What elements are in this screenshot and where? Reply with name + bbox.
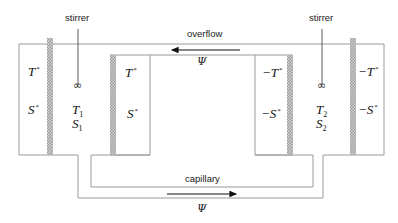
left-inner-salinity: S* (127, 107, 138, 120)
vessel-2-salinity: S2 (316, 117, 327, 133)
stirrer-icon-left: ∞ (73, 80, 82, 91)
right-outer-salinity: −S* (358, 103, 378, 116)
membrane-right-outer (350, 38, 356, 155)
capillary-label: capillary (185, 173, 220, 184)
right-inner-temperature: −T* (262, 66, 283, 79)
psi-bottom: Ψ (197, 203, 207, 214)
left-inner-temperature: T* (125, 66, 137, 79)
right-outer-temperature: −T* (358, 65, 379, 78)
right-inner-salinity: −S* (261, 107, 281, 120)
membrane-left-outer (47, 38, 53, 155)
overflow-label: overflow (187, 28, 222, 39)
two-box-thermohaline-diagram: stirrer stirrer overflow capillary Ψ Ψ ∞… (0, 0, 398, 223)
membrane-left-inner (110, 55, 116, 155)
stirrer-label-right: stirrer (309, 12, 333, 23)
stirrer-icon-right: ∞ (317, 80, 326, 91)
membrane-right-inner (287, 55, 293, 155)
psi-top: Ψ (197, 56, 207, 67)
left-outer-salinity: S* (28, 103, 39, 116)
left-outer-temperature: T* (28, 65, 40, 78)
vessel-1-salinity: S1 (72, 117, 83, 133)
stirrer-label-left: stirrer (65, 12, 89, 23)
